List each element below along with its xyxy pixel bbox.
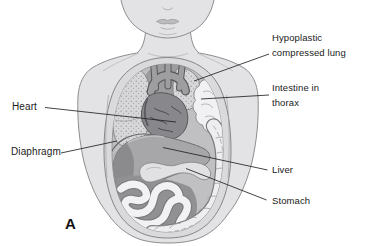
liver-label: Liver: [272, 162, 293, 177]
diaphragm-label: Diaphragm: [11, 146, 61, 158]
intestine-in-thorax-label: Intestine in thorax: [272, 80, 332, 110]
heart-label: Heart: [12, 101, 37, 113]
hypoplastic-lung-label: Hypoplastic compressed lung: [272, 30, 367, 60]
stomach-label: Stomach: [272, 193, 310, 208]
infant-head: [121, 0, 214, 38]
medical-figure: Hypoplastic compressed lung Intestine in…: [0, 0, 370, 246]
panel-letter: A: [65, 215, 76, 232]
